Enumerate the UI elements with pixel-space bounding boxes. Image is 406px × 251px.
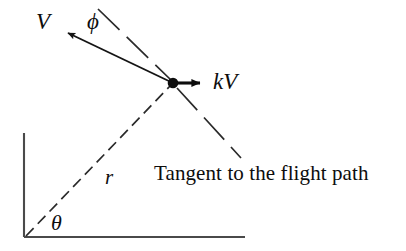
velocity-label: V	[36, 10, 50, 33]
tangent-caption: Tangent to the flight path	[154, 163, 369, 184]
angle-theta-label: θ	[51, 212, 62, 234]
radius-vector-line	[26, 86, 170, 236]
angle-phi-label: ϕ	[87, 10, 99, 33]
flight-path-tangent-upper	[98, 9, 171, 80]
radius-label: r	[105, 167, 113, 188]
velocity-vector-arrow	[68, 33, 173, 83]
flight-path-tangent-lower	[177, 88, 241, 158]
body-point-dot	[168, 78, 179, 89]
thrust-label: kV	[213, 70, 237, 93]
diagram-canvas: V ϕ kV r θ Tangent to the flight path	[0, 0, 406, 251]
